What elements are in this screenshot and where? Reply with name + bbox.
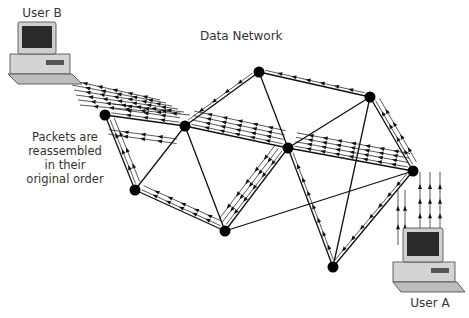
user-b-label: User B [12, 6, 72, 20]
link-n5-n7 [288, 97, 370, 148]
router-node-n2 [180, 121, 191, 132]
user-a-computer-icon [393, 228, 465, 292]
router-node-n5 [283, 143, 294, 154]
user-a-label: User A [400, 296, 460, 310]
link-n2-n3 [135, 126, 185, 190]
user-b-computer-icon [8, 22, 82, 84]
note-line-3: in their [25, 158, 105, 172]
router-node-n6 [254, 67, 265, 78]
router-node-n7 [365, 92, 376, 103]
link-n4-n5 [225, 148, 288, 231]
link-n8-n9 [333, 171, 413, 267]
note-line-4: original order [25, 172, 105, 186]
note-line-2: reassembled [25, 144, 105, 158]
router-node-n3 [130, 185, 141, 196]
link-n6-n7 [259, 72, 370, 97]
router-node-n4 [220, 226, 231, 237]
link-n7-n9 [333, 97, 370, 267]
router-node-n1 [100, 110, 111, 121]
link-n2-n6 [185, 72, 259, 126]
link-n5-n9 [288, 148, 333, 267]
link-n1-n3 [105, 115, 135, 190]
router-node-n8 [408, 166, 419, 177]
link-n5-n6 [259, 72, 288, 148]
network-diagram: User B User A Data Network Packets are r… [0, 0, 469, 318]
router-node-n9 [328, 262, 339, 273]
note-line-1: Packets are [25, 130, 105, 144]
diagram-title: Data Network [200, 29, 290, 43]
reassembly-note: Packets are reassembled in their origina… [25, 130, 105, 186]
link-n7-n8 [370, 97, 413, 171]
